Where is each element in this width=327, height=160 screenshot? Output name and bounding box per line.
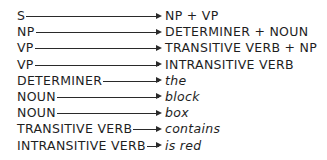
rule-row: VP TRANSITIVE VERB + NP (17, 40, 327, 56)
arrow-line (17, 65, 159, 66)
rule-rhs: INTRANSITIVE VERB (165, 57, 294, 73)
grammar-rules: S NP + VP NP DETERMINER + NOUN VP TRANSI… (17, 8, 327, 154)
rule-row: NOUN box (17, 105, 327, 121)
rule-rhs: TRANSITIVE VERB + NP (165, 40, 317, 56)
rule-row: NOUN block (17, 89, 327, 105)
rule-lhs: DETERMINER (17, 73, 103, 89)
arrow-right-icon (156, 93, 162, 99)
arrow-right-icon (156, 126, 162, 132)
arrow-right-icon (156, 61, 162, 67)
rule-lhs: S (17, 8, 26, 24)
rule-row: VP INTRANSITIVE VERB (17, 57, 327, 73)
rule-rhs: NP + VP (165, 8, 219, 24)
rule-row: DETERMINER the (17, 73, 327, 89)
arrow-right-icon (156, 77, 162, 83)
rule-rhs-terminal: block (165, 89, 200, 105)
arrow-right-icon (156, 29, 162, 35)
rule-rhs-terminal: contains (165, 121, 220, 137)
rule-rhs: DETERMINER + NOUN (165, 24, 308, 40)
arrow-right-icon (156, 13, 162, 19)
arrow-line (17, 32, 159, 33)
arrow-line (17, 16, 159, 17)
rule-rhs-terminal: is red (165, 138, 202, 154)
rule-row: NP DETERMINER + NOUN (17, 24, 327, 40)
rule-lhs: INTRANSITIVE VERB (17, 138, 147, 154)
rule-rhs-terminal: box (165, 105, 189, 121)
rule-row: INTRANSITIVE VERB is red (17, 138, 327, 154)
rule-lhs: TRANSITIVE VERB (17, 121, 133, 137)
rule-row: S NP + VP (17, 8, 327, 24)
rule-lhs: NP (17, 24, 36, 40)
rule-lhs: NOUN (17, 89, 57, 105)
rule-lhs: VP (17, 57, 35, 73)
rule-lhs: VP (17, 40, 35, 56)
rule-rhs-terminal: the (165, 73, 186, 89)
rule-row: TRANSITIVE VERB contains (17, 121, 327, 137)
arrow-right-icon (156, 45, 162, 51)
rule-lhs: NOUN (17, 105, 57, 121)
arrow-right-icon (156, 110, 162, 116)
arrow-line (17, 48, 159, 49)
arrow-right-icon (156, 142, 162, 148)
